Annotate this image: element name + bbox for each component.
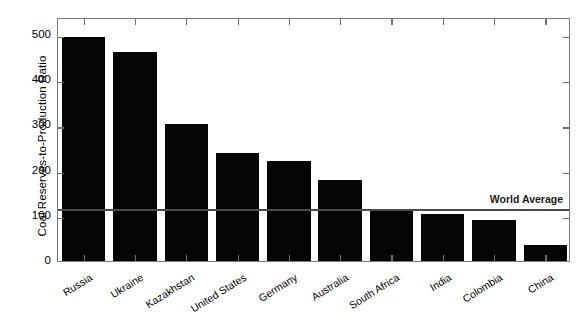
x-tick-mark — [391, 19, 392, 25]
world-average-line — [58, 209, 569, 211]
x-tick-mark — [186, 255, 187, 261]
x-tick-mark — [391, 255, 392, 261]
x-tick-mark — [238, 255, 239, 261]
chart-figure: Coal Reserves-to-Production Ratio World … — [0, 0, 588, 328]
bar — [216, 153, 259, 261]
x-tick-mark — [84, 255, 85, 261]
y-tick-mark — [563, 127, 569, 128]
x-tick-mark — [186, 19, 187, 25]
y-tick-label: 0 — [11, 254, 51, 266]
x-tick-mark — [238, 19, 239, 25]
world-average-label: World Average — [490, 193, 563, 205]
x-tick-mark — [340, 19, 341, 25]
x-tick-mark — [340, 255, 341, 261]
x-tick-mark — [545, 255, 546, 261]
y-tick-mark — [58, 173, 64, 174]
bar — [113, 52, 156, 261]
x-tick-mark — [289, 19, 290, 25]
plot-area: World Average — [57, 18, 570, 262]
y-tick-label: 300 — [11, 118, 51, 130]
bar — [318, 180, 361, 261]
y-tick-mark — [58, 82, 64, 83]
x-tick-mark — [494, 19, 495, 25]
y-tick-mark — [563, 82, 569, 83]
bar — [62, 37, 105, 261]
plot-inner: World Average — [58, 19, 569, 261]
bar — [165, 124, 208, 261]
bar — [370, 209, 413, 261]
x-tick-mark — [289, 255, 290, 261]
y-tick-label: 100 — [11, 209, 51, 221]
x-tick-mark — [84, 19, 85, 25]
x-tick-mark — [545, 19, 546, 25]
x-tick-mark — [443, 19, 444, 25]
y-tick-mark — [58, 37, 64, 38]
y-tick-mark — [563, 37, 569, 38]
y-tick-label: 200 — [11, 164, 51, 176]
bar — [421, 214, 464, 261]
y-tick-mark — [563, 173, 569, 174]
y-tick-label: 500 — [11, 28, 51, 40]
x-tick-mark — [135, 19, 136, 25]
y-axis-title: Coal Reserves-to-Production Ratio — [36, 26, 48, 266]
y-tick-label: 400 — [11, 73, 51, 85]
x-tick-mark — [135, 255, 136, 261]
y-tick-mark — [563, 218, 569, 219]
x-tick-mark — [494, 255, 495, 261]
y-tick-mark — [58, 127, 64, 128]
y-tick-mark — [58, 218, 64, 219]
x-tick-mark — [443, 255, 444, 261]
